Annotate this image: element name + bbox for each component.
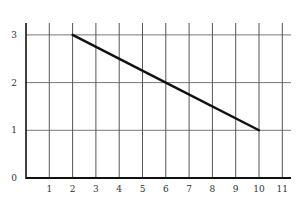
x-tick-label: 5 <box>140 184 146 194</box>
y-tick-label: 1 <box>11 125 17 135</box>
line-chart: 1234567891011 0123 <box>0 0 305 203</box>
axes <box>26 23 291 179</box>
x-tick-label: 1 <box>46 184 52 194</box>
x-axis-tick-labels: 1234567891011 <box>46 184 288 194</box>
x-tick-label: 10 <box>253 184 265 194</box>
x-tick-label: 8 <box>210 184 216 194</box>
x-tick-label: 11 <box>277 184 288 194</box>
x-tick-label: 2 <box>70 184 76 194</box>
x-tick-label: 9 <box>233 184 239 194</box>
y-tick-label: 2 <box>11 78 17 88</box>
y-axis-tick-labels: 0123 <box>11 30 17 183</box>
x-tick-label: 6 <box>163 184 169 194</box>
x-tick-label: 7 <box>186 184 192 194</box>
grid-lines <box>26 23 291 178</box>
y-tick-label: 3 <box>11 30 17 40</box>
x-tick-label: 3 <box>93 184 99 194</box>
x-tick-label: 4 <box>116 184 122 194</box>
y-tick-label: 0 <box>11 173 17 183</box>
